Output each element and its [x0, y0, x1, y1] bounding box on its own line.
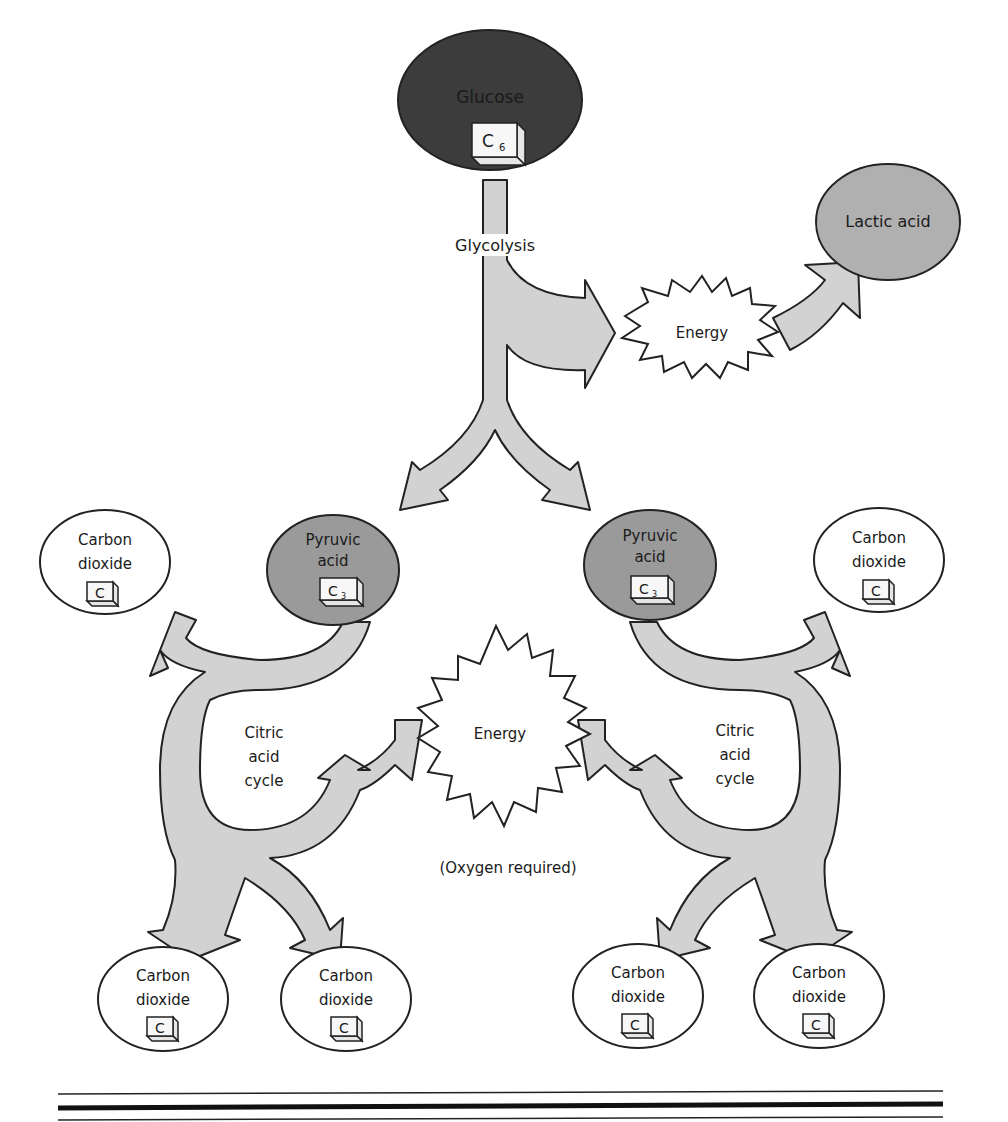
svg-text:C: C	[630, 1017, 640, 1033]
energy-aerobic-burst: Energy	[418, 626, 590, 826]
svg-text:acid: acid	[248, 748, 279, 766]
glucose-label: Glucose	[456, 87, 524, 107]
svg-text:acid: acid	[719, 746, 750, 764]
svg-text:dioxide: dioxide	[136, 991, 190, 1009]
carbon-cube-icon: C	[622, 1014, 653, 1038]
svg-text:cycle: cycle	[245, 772, 284, 790]
svg-text:dioxide: dioxide	[78, 555, 132, 573]
svg-text:dioxide: dioxide	[611, 988, 665, 1006]
lactic-acid-label: Lactic acid	[845, 212, 930, 231]
svg-text:C: C	[482, 131, 494, 151]
svg-text:dioxide: dioxide	[792, 988, 846, 1006]
co2-bottom-1-node: Carbon dioxide C	[98, 947, 228, 1051]
carbon-c3-cube-icon: C 3	[320, 578, 363, 606]
left-citric-cycle-pathway	[148, 612, 422, 960]
co2-bottom-3-node: Carbon dioxide C	[573, 944, 703, 1048]
carbon-cube-icon: C	[147, 1017, 178, 1041]
glucose-node: Glucose C 6	[398, 30, 582, 170]
co2-top-left-node: Carbon dioxide C	[40, 510, 170, 614]
co2-bottom-2-node: Carbon dioxide C	[281, 947, 411, 1051]
glycolysis-label-group: Glycolysis	[440, 234, 550, 256]
svg-text:C: C	[95, 585, 105, 601]
glycolysis-pathway	[400, 180, 615, 510]
svg-text:C: C	[339, 1020, 349, 1036]
svg-text:Citric: Citric	[715, 722, 754, 740]
svg-text:Pyruvic: Pyruvic	[623, 527, 678, 545]
co2-bottom-4-node: Carbon dioxide C	[754, 944, 884, 1048]
bottom-rule-divider	[58, 1091, 943, 1120]
citric-cycle-left-label: Citric acid cycle	[244, 724, 283, 790]
svg-text:Pyruvic: Pyruvic	[306, 531, 361, 549]
svg-text:Carbon: Carbon	[611, 964, 665, 982]
oxygen-required-note: (Oxygen required)	[439, 859, 576, 877]
carbon-cube-icon: C	[803, 1014, 834, 1038]
svg-text:Carbon: Carbon	[852, 529, 906, 547]
svg-text:C: C	[155, 1020, 165, 1036]
svg-text:C: C	[871, 583, 881, 599]
carbon-c6-cube-icon: C 6	[472, 123, 525, 165]
svg-text:C: C	[639, 581, 649, 597]
svg-text:Carbon: Carbon	[792, 964, 846, 982]
carbon-cube-icon: C	[863, 580, 894, 604]
svg-text:acid: acid	[634, 548, 665, 566]
carbon-cube-icon: C	[87, 582, 118, 606]
pyruvic-acid-right-node: Pyruvic acid C 3	[584, 510, 716, 620]
svg-text:Carbon: Carbon	[319, 967, 373, 985]
carbon-cube-icon: C	[331, 1017, 362, 1041]
energy-aerobic-label: Energy	[474, 725, 527, 743]
svg-text:Carbon: Carbon	[136, 967, 190, 985]
svg-text:dioxide: dioxide	[852, 553, 906, 571]
co2-top-right-node: Carbon dioxide C	[814, 508, 944, 612]
citric-cycle-right-label: Citric acid cycle	[715, 722, 754, 788]
svg-text:acid: acid	[317, 552, 348, 570]
carbon-c3-cube-icon: C 3	[631, 576, 674, 604]
svg-text:C: C	[811, 1017, 821, 1033]
svg-text:6: 6	[499, 142, 505, 153]
metabolism-diagram: Glucose C 6 Glycolysis Energy Lactic aci…	[0, 0, 1008, 1122]
svg-text:dioxide: dioxide	[319, 991, 373, 1009]
svg-text:Carbon: Carbon	[78, 531, 132, 549]
svg-text:3: 3	[652, 590, 657, 599]
svg-text:Citric: Citric	[244, 724, 283, 742]
lactic-acid-node: Lactic acid	[816, 164, 960, 280]
energy-anaerobic-burst: Energy	[622, 276, 778, 378]
glycolysis-label: Glycolysis	[455, 236, 535, 255]
energy-anaerobic-label: Energy	[676, 324, 729, 342]
svg-text:cycle: cycle	[716, 770, 755, 788]
svg-text:C: C	[328, 583, 338, 599]
arrow-to-lactic-acid	[773, 262, 860, 350]
pyruvic-acid-left-node: Pyruvic acid C 3	[267, 515, 399, 625]
svg-text:3: 3	[341, 592, 346, 601]
